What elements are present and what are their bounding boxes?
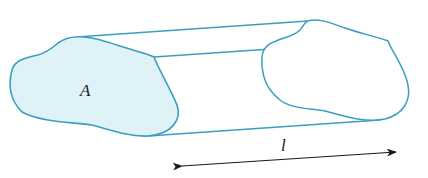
length-label: l (281, 136, 286, 155)
prism-diagram: A l (0, 0, 428, 178)
length-arrow (182, 152, 396, 166)
bottom-edge (148, 120, 380, 136)
front-cross-section (10, 37, 178, 136)
back-cross-section (262, 20, 409, 120)
area-label: A (79, 81, 91, 100)
top-edge (76, 21, 308, 37)
